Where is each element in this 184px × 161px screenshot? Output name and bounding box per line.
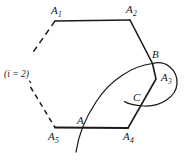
label-vertex-a5-sub: 5 xyxy=(55,136,59,145)
edge-a2-b xyxy=(130,20,153,64)
label-vertex-a4: A4 xyxy=(123,131,133,142)
label-vertex-a4-sub: 4 xyxy=(130,136,134,145)
label-vertex-a4-base: A xyxy=(123,130,130,142)
label-vertex-a5: A5 xyxy=(48,131,58,142)
label-vertex-a3-sub: 3 xyxy=(168,77,172,86)
geometry-figure: A1 A2 B A3 C A A5 A4 (i = 2) xyxy=(0,0,184,161)
figure-svg-canvas xyxy=(0,0,184,161)
label-vertex-a1-sub: 1 xyxy=(58,10,62,19)
label-point-b: B xyxy=(152,49,159,60)
label-vertex-a1: A1 xyxy=(51,5,61,16)
label-point-c: C xyxy=(133,92,140,103)
label-vertex-a3: A3 xyxy=(161,72,171,83)
label-vertex-a1-base: A xyxy=(51,4,58,16)
index-note-leader-dash xyxy=(29,80,32,84)
edge-dashed-stub-a5 xyxy=(31,87,56,128)
label-point-a: A xyxy=(77,115,84,126)
label-index-note: (i = 2) xyxy=(4,70,29,80)
label-vertex-a2-base: A xyxy=(126,3,133,15)
label-vertex-a2: A2 xyxy=(126,4,136,15)
edge-a5-a4 xyxy=(55,128,128,129)
edge-a1-dashed-stub xyxy=(33,21,56,53)
curve-long-arc-a-to-b xyxy=(76,64,153,153)
label-vertex-a2-sub: 2 xyxy=(133,9,137,18)
label-vertex-a5-base: A xyxy=(48,130,55,142)
edge-a1-a2 xyxy=(55,20,130,21)
label-vertex-a3-base: A xyxy=(161,71,168,83)
